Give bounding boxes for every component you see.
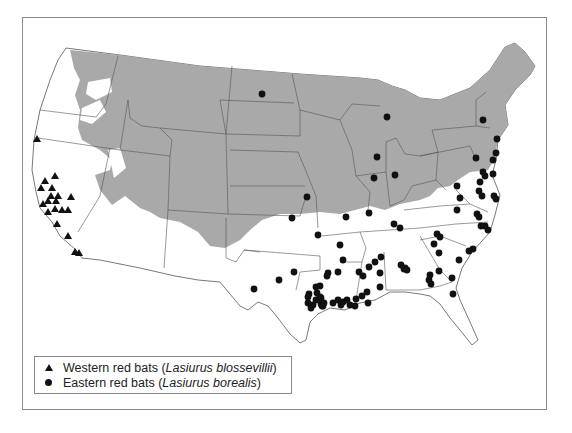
eastern-red-bat-marker <box>377 284 384 291</box>
eastern-red-bat-marker <box>317 294 324 301</box>
legend-paren: ( <box>155 376 163 390</box>
eastern-red-bat-marker <box>353 296 360 303</box>
eastern-red-bat-marker <box>480 117 487 124</box>
eastern-red-bat-marker <box>377 270 384 277</box>
legend-common-name: Eastern red bats <box>63 376 155 390</box>
eastern-red-bat-marker <box>450 291 457 298</box>
eastern-red-bat-marker <box>490 157 497 164</box>
eastern-red-bat-marker <box>291 269 298 276</box>
eastern-red-bat-marker <box>437 234 444 241</box>
eastern-red-bat-marker <box>431 241 438 248</box>
eastern-red-bat-marker <box>493 150 500 157</box>
legend-paren: ) <box>257 376 261 390</box>
eastern-red-bat-marker <box>449 275 456 282</box>
eastern-red-bat-marker <box>392 172 399 179</box>
legend-paren: ) <box>273 361 277 375</box>
legend-item-eastern-red-bat: Eastern red bats (Lasiurus borealis) <box>45 375 291 390</box>
eastern-red-bat-marker <box>428 281 435 288</box>
eastern-red-bat-marker <box>476 214 483 221</box>
eastern-red-bat-marker <box>402 265 409 272</box>
eastern-red-bat-marker <box>391 221 398 228</box>
eastern-red-bat-marker <box>470 246 477 253</box>
eastern-red-bat-marker <box>473 155 480 162</box>
circle-icon <box>45 379 63 386</box>
eastern-red-bat-marker <box>454 183 461 190</box>
eastern-red-bat-marker <box>494 136 501 143</box>
eastern-red-bat-marker <box>493 196 500 203</box>
eastern-red-bat-marker <box>305 294 312 301</box>
eastern-red-bat-marker <box>374 154 381 161</box>
triangle-icon <box>45 364 63 371</box>
eastern-red-bat-marker <box>352 303 359 310</box>
legend-paren: ( <box>158 361 166 375</box>
eastern-red-bat-marker <box>457 195 464 202</box>
eastern-red-bat-marker <box>364 289 371 296</box>
legend-common-name: Western red bats <box>63 361 158 375</box>
eastern-red-bat-marker <box>251 286 258 293</box>
legend-item-western-red-bat: Western red bats (Lasiurus blossevillii) <box>45 360 291 375</box>
eastern-red-bat-marker <box>305 300 312 307</box>
eastern-red-bat-marker <box>337 242 344 249</box>
eastern-red-bat-marker <box>456 257 463 264</box>
legend: Western red bats (Lasiurus blossevillii)… <box>34 356 292 394</box>
eastern-red-bat-marker <box>313 284 320 291</box>
eastern-red-bat-marker <box>436 268 443 275</box>
eastern-red-bat-marker <box>482 173 489 180</box>
eastern-red-bat-marker <box>485 227 492 234</box>
eastern-red-bat-marker <box>335 269 342 276</box>
eastern-red-bat-marker <box>304 194 311 201</box>
eastern-red-bat-marker <box>477 179 484 186</box>
eastern-red-bat-marker <box>321 300 328 307</box>
eastern-red-bat-marker <box>324 273 331 280</box>
eastern-red-bat-marker <box>343 214 350 221</box>
eastern-red-bat-marker <box>372 259 379 266</box>
eastern-red-bat-marker <box>360 273 367 280</box>
eastern-red-bat-marker <box>365 300 372 307</box>
eastern-red-bat-marker <box>436 250 443 257</box>
eastern-red-bat-marker <box>315 232 322 239</box>
eastern-red-bat-marker <box>366 264 373 271</box>
eastern-red-bat-marker <box>490 171 497 178</box>
eastern-red-bat-marker <box>371 175 378 182</box>
legend-scientific-name: Lasiurus borealis <box>162 376 257 390</box>
legend-scientific-name: Lasiurus blossevillii <box>166 361 273 375</box>
eastern-red-bat-marker <box>276 277 283 284</box>
eastern-red-bat-marker <box>378 254 385 261</box>
eastern-red-bat-marker <box>259 91 266 98</box>
eastern-red-bat-marker <box>479 193 486 200</box>
eastern-red-bat-marker <box>384 114 391 121</box>
eastern-red-bat-marker <box>366 210 373 217</box>
eastern-red-bat-marker <box>289 215 296 222</box>
eastern-red-bat-marker <box>454 207 461 214</box>
eastern-red-bat-marker <box>340 257 347 264</box>
eastern-red-bat-marker <box>397 225 404 232</box>
